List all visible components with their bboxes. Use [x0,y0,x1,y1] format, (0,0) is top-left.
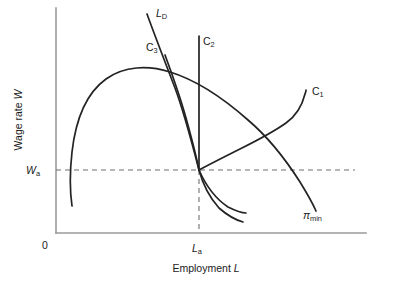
labour-market-diagram: LD C3 C2 C1 πmin Wa La 0 Wage rate W Emp… [0,0,406,283]
curve-label-c2: C2 [203,35,215,49]
tick-label-employment-equilibrium: La [192,242,203,256]
curve-label-pi-min: πmin [303,209,322,223]
y-axis-title: Wage rate W [12,88,24,150]
tick-label-wage-equilibrium: Wa [26,164,41,178]
curve-label-c1: C1 [312,85,324,99]
curve-ld [147,14,246,213]
curve-c3 [165,55,243,222]
curve-pi-min [71,68,317,211]
x-axis-title: Employment L [172,262,239,274]
diagram-canvas: LD C3 C2 C1 πmin Wa La 0 Wage rate W Emp… [0,0,406,283]
curve-label-ld: LD [156,7,167,21]
curve-c1 [199,90,306,170]
curve-label-c3: C3 [146,41,158,55]
origin-label: 0 [42,239,48,251]
